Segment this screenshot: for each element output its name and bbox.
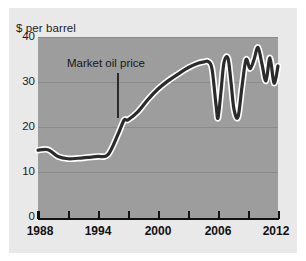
annotation-market-oil-price: Market oil price: [67, 57, 145, 69]
x-tick-mark-2012: [278, 211, 280, 219]
x-tick-mark-1988: [38, 211, 40, 219]
y-tick-label-30: 30: [5, 75, 35, 87]
x-tick-label-2006: 2006: [205, 224, 232, 238]
annotation-leader-line: [117, 73, 119, 118]
x-tick-label-2000: 2000: [145, 224, 172, 238]
x-tick-mark-1991: [68, 211, 70, 219]
x-tick-mark-1997: [128, 211, 130, 219]
y-tick-label-0: 0: [5, 210, 35, 222]
x-tick-mark-2000: [158, 211, 160, 219]
x-tick-label-2012: 2012: [263, 224, 290, 238]
x-tick-mark-2006: [218, 211, 220, 219]
x-tick-mark-2009: [248, 211, 250, 219]
x-tick-label-1994: 1994: [85, 224, 112, 238]
y-axis-tick-labels: 40 30 20 10 0: [2, 0, 35, 261]
x-tick-mark-1994: [98, 211, 100, 219]
y-tick-label-20: 20: [5, 120, 35, 132]
oil-price-chart-figure: $ per barrel 40 30 20 10 0 Market oil pr…: [0, 0, 306, 261]
y-tick-label-10: 10: [5, 165, 35, 177]
x-tick-mark-2003: [188, 211, 190, 219]
y-tick-label-40: 40: [5, 30, 35, 42]
x-tick-label-1988: 1988: [27, 224, 54, 238]
